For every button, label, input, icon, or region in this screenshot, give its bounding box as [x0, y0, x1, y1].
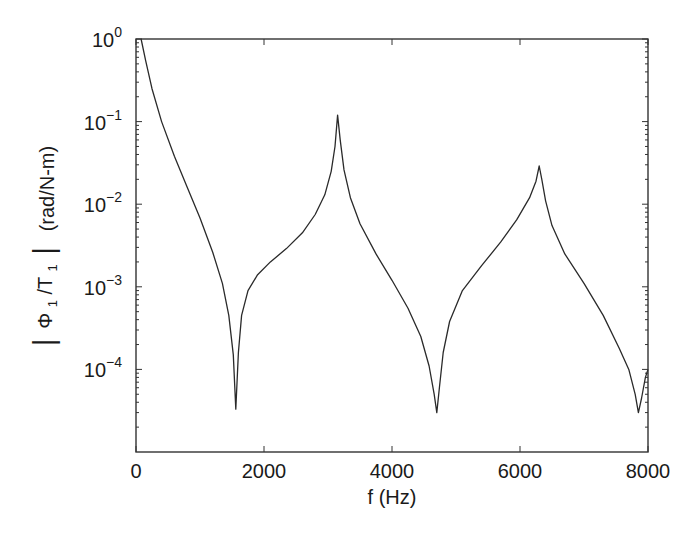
y-label-phi: Φ — [34, 313, 56, 329]
y-label-t-sub: 1 — [45, 264, 60, 271]
y-label-bar-right: | — [27, 247, 60, 255]
y-tick-label: 10−2 — [84, 189, 122, 216]
response-curve — [141, 39, 648, 413]
y-tick-label: 100 — [92, 24, 122, 51]
svg-text:| Φ 1 /T: | Φ 1 /T 1 | (rad/N-m) — [27, 146, 61, 346]
y-axis-tick-labels: 10010−110−210−310−4 — [84, 24, 122, 381]
x-axis-label: f (Hz) — [368, 486, 417, 508]
y-tick-label: 10−3 — [84, 272, 122, 299]
y-axis-minor-ticks — [136, 43, 648, 427]
y-axis-label: | Φ 1 /T 1 | (rad/N-m) — [27, 146, 61, 346]
x-tick-label: 2000 — [242, 460, 287, 482]
y-label-slash-t: /T — [34, 277, 56, 295]
y-label-phi-sub: 1 — [45, 300, 60, 307]
frequency-response-chart: 02000400060008000 10010−110−210−310−4 f … — [0, 0, 692, 539]
x-tick-label: 8000 — [626, 460, 671, 482]
y-label-units: (rad/N-m) — [36, 146, 58, 232]
x-tick-label: 4000 — [370, 460, 415, 482]
y-axis-ticks — [136, 39, 648, 369]
y-tick-label: 10−4 — [84, 354, 122, 381]
plot-frame — [136, 39, 648, 452]
y-label-bar-left: | — [27, 338, 60, 346]
x-tick-label: 0 — [130, 460, 141, 482]
x-tick-label: 6000 — [498, 460, 543, 482]
x-axis-ticks — [136, 39, 648, 452]
y-tick-label: 10−1 — [84, 107, 122, 134]
x-axis-tick-labels: 02000400060008000 — [130, 460, 670, 482]
